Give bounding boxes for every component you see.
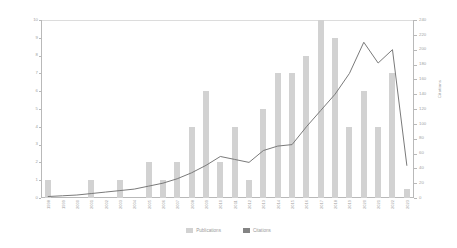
y-axis-right-tick-label: 20 bbox=[419, 181, 424, 185]
bar-publications bbox=[303, 56, 309, 198]
publications-citations-chart: Publications Citations 012345678910 0204… bbox=[0, 0, 457, 248]
x-axis-tick-label: 2012 bbox=[247, 199, 252, 211]
y-axis-left-tick-mark bbox=[39, 180, 42, 181]
y-axis-right-tick-mark bbox=[414, 50, 417, 51]
bar-publications bbox=[88, 180, 94, 198]
y-axis-left-tick-mark bbox=[39, 20, 42, 21]
y-axis-left-tick-label: 10 bbox=[33, 18, 38, 22]
y-axis-right-tick-mark bbox=[414, 20, 417, 21]
bar-publications bbox=[217, 162, 223, 198]
y-axis-right-tick-mark bbox=[414, 198, 417, 199]
y-axis-left-tick-mark bbox=[39, 109, 42, 110]
y-axis-right-tick-label: 60 bbox=[419, 151, 424, 155]
bar-publications bbox=[174, 162, 180, 198]
y-axis-left-tick-mark bbox=[39, 38, 42, 39]
legend-swatch-citations-icon bbox=[243, 228, 250, 233]
bar-publications bbox=[246, 180, 252, 198]
bar-publications bbox=[275, 73, 281, 198]
x-axis-tick-label: 2023 bbox=[404, 199, 409, 211]
bar-publications bbox=[45, 180, 51, 198]
y-axis-right-tick-mark bbox=[414, 183, 417, 184]
x-axis-tick-label: 2002 bbox=[103, 199, 108, 211]
bar-publications bbox=[332, 38, 338, 198]
bar-publications bbox=[146, 162, 152, 198]
x-axis-tick-label: 1999 bbox=[60, 199, 65, 211]
x-axis-tick-label: 2003 bbox=[117, 199, 122, 211]
bar-publications bbox=[260, 109, 266, 198]
y-axis-left-tick-mark bbox=[39, 127, 42, 128]
legend-label-publications: Publications bbox=[196, 228, 221, 233]
bar-publications bbox=[375, 127, 381, 198]
x-axis-tick-label: 1998 bbox=[46, 199, 51, 211]
x-axis-tick-label: 2016 bbox=[304, 199, 309, 211]
y-axis-right-tick-label: 180 bbox=[419, 62, 426, 66]
x-axis-tick-label: 2008 bbox=[189, 199, 194, 211]
y-axis-right-tick-mark bbox=[414, 154, 417, 155]
y-axis-right-tick-mark bbox=[414, 168, 417, 169]
x-axis-tick-label: 2009 bbox=[203, 199, 208, 211]
y-axis-right-tick-mark bbox=[414, 94, 417, 95]
y-axis-right-tick-mark bbox=[414, 65, 417, 66]
legend-swatch-publications-icon bbox=[186, 228, 193, 233]
x-axis-tick-label: 2018 bbox=[333, 199, 338, 211]
bar-publications bbox=[160, 180, 166, 198]
y-axis-left-tick-mark bbox=[39, 198, 42, 199]
x-axis-tick-label: 2015 bbox=[290, 199, 295, 211]
bar-publications bbox=[318, 20, 324, 198]
bar-publications bbox=[117, 180, 123, 198]
y-axis-left-tick-mark bbox=[39, 91, 42, 92]
y-axis-left-tick-mark bbox=[39, 73, 42, 74]
y-axis-right-tick-label: 140 bbox=[419, 92, 426, 96]
y-axis-title-right: Citations bbox=[437, 80, 442, 98]
bar-publications bbox=[232, 127, 238, 198]
x-axis-tick-label: 2020 bbox=[361, 199, 366, 211]
bar-publications bbox=[404, 189, 410, 198]
y-axis-right-tick-mark bbox=[414, 35, 417, 36]
legend-item-citations: Citations bbox=[243, 228, 271, 233]
y-axis-right-tick-label: 220 bbox=[419, 33, 426, 37]
y-axis-right-tick-label: 120 bbox=[419, 107, 426, 111]
y-axis-right-tick-label: 100 bbox=[419, 122, 426, 126]
x-axis-tick-label: 2007 bbox=[175, 199, 180, 211]
y-axis-right-tick-mark bbox=[414, 124, 417, 125]
y-axis-left-tick-mark bbox=[39, 56, 42, 57]
bar-publications bbox=[361, 91, 367, 198]
plot-area bbox=[41, 20, 414, 198]
y-axis-right-tick-label: 0 bbox=[419, 196, 421, 200]
y-axis-right-tick-label: 40 bbox=[419, 166, 424, 170]
y-axis-right-tick-mark bbox=[414, 109, 417, 110]
x-axis-tick-label: 2010 bbox=[218, 199, 223, 211]
x-axis-tick-label: 2019 bbox=[347, 199, 352, 211]
bar-publications bbox=[189, 127, 195, 198]
x-axis-tick-label: 2011 bbox=[232, 199, 237, 211]
y-axis-right-tick-label: 160 bbox=[419, 77, 426, 81]
bar-publications bbox=[389, 73, 395, 198]
y-axis-right-tick-mark bbox=[414, 139, 417, 140]
y-axis-left-tick-mark bbox=[39, 162, 42, 163]
x-axis-tick-label: 2004 bbox=[132, 199, 137, 211]
legend-item-publications: Publications bbox=[186, 228, 221, 233]
x-axis-tick-label: 2001 bbox=[89, 199, 94, 211]
y-axis-left-tick-mark bbox=[39, 145, 42, 146]
y-axis-right-tick-mark bbox=[414, 79, 417, 80]
x-axis-tick-label: 2006 bbox=[160, 199, 165, 211]
bar-publications bbox=[289, 73, 295, 198]
x-axis-tick-label: 2014 bbox=[275, 199, 280, 211]
x-axis-tick-label: 2017 bbox=[318, 199, 323, 211]
y-axis-right-tick-label: 200 bbox=[419, 47, 426, 51]
legend-label-citations: Citations bbox=[253, 228, 271, 233]
x-axis-tick-label: 2013 bbox=[261, 199, 266, 211]
chart-legend: Publications Citations bbox=[0, 228, 457, 233]
y-axis-right-tick-label: 240 bbox=[419, 18, 426, 22]
x-axis-tick-label: 2021 bbox=[376, 199, 381, 211]
bar-publications bbox=[203, 91, 209, 198]
x-axis-tick-label: 2005 bbox=[146, 199, 151, 211]
x-axis-tick-label: 2022 bbox=[390, 199, 395, 211]
y-axis-right-tick-label: 80 bbox=[419, 136, 424, 140]
bar-publications bbox=[346, 127, 352, 198]
x-axis-tick-label: 2000 bbox=[74, 199, 79, 211]
